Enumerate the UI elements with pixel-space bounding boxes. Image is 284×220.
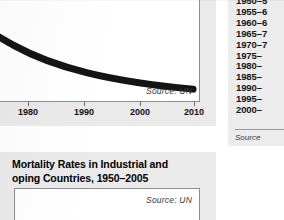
- x-tick: [194, 102, 195, 106]
- period-table-source-note: Source: [235, 133, 260, 142]
- list-item: 1965–7: [236, 29, 284, 40]
- list-item: 1970–7: [236, 40, 284, 51]
- bottom-figure-panel: Mortality Rates in Industrial and oping …: [0, 152, 216, 220]
- x-axis-label-1980: 1980: [18, 107, 38, 117]
- figure-title-line-2: oping Countries, 1950–2005: [12, 172, 222, 186]
- top-chart-frame: Source: UN: [0, 0, 200, 102]
- x-tick: [28, 102, 29, 106]
- figure-title-line-1: Mortality Rates in Industrial and: [12, 158, 222, 172]
- x-axis-label-2010: 2010: [184, 107, 204, 117]
- bottom-chart-source-note: Source: UN: [146, 195, 192, 205]
- bottom-chart-frame: Source: UN: [14, 188, 200, 220]
- x-axis-label-1990: 1990: [74, 107, 94, 117]
- x-tick: [84, 102, 85, 106]
- scanned-page: Source: UN 1970 1980 1990 2000 2010 1950…: [0, 0, 284, 220]
- top-chart-source-note: Source: UN: [146, 86, 192, 96]
- page-title: Mortality Rates in Industrial and oping …: [12, 158, 222, 185]
- period-table-panel: 1950–5 1955–6 1960–6 1965–7 1970–7 1975–…: [228, 0, 284, 146]
- x-tick: [140, 102, 141, 106]
- mortality-trend-line: [0, 0, 193, 89]
- top-chart-panel: Source: UN 1970 1980 1990 2000 2010: [0, 0, 216, 126]
- x-axis-label-2000: 2000: [130, 107, 150, 117]
- period-list: 1950–5 1955–6 1960–6 1965–7 1970–7 1975–…: [236, 0, 284, 116]
- top-chart-x-axis: 1970 1980 1990 2000 2010: [0, 102, 200, 126]
- list-item: 2000–: [236, 105, 284, 116]
- period-table-divider: [235, 129, 284, 130]
